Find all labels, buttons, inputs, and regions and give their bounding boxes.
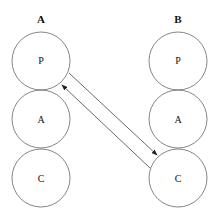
node-label: P xyxy=(38,55,44,66)
column-b-node-c: C xyxy=(149,149,207,207)
column-a-node-a: A xyxy=(12,90,70,148)
arrow-a-p-to-b-c xyxy=(69,73,157,155)
column-b-node-a: A xyxy=(149,90,207,148)
node-label: C xyxy=(175,173,182,184)
arrow-b-c-to-a-p xyxy=(62,85,150,168)
node-label: P xyxy=(175,55,181,66)
column-b-node-p: P xyxy=(149,32,207,90)
column-a-node-c: C xyxy=(12,149,70,207)
column-a-header: A xyxy=(37,13,45,25)
node-label: A xyxy=(174,114,182,125)
node-label: C xyxy=(38,173,45,184)
column-b-header: B xyxy=(174,13,182,25)
column-a-node-p: P xyxy=(12,32,70,90)
diagram-canvas: A P A C B P A C xyxy=(0,0,218,219)
node-label: A xyxy=(37,114,45,125)
